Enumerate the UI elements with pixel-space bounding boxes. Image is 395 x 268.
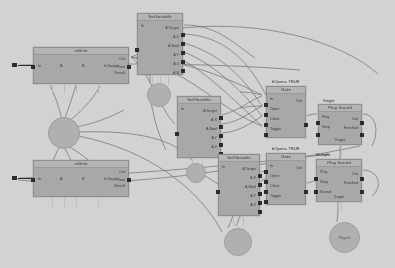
node-playsound-multiple-footer-label: Target <box>317 195 361 199</box>
node-setvariable-low-out-label-2: A Bool <box>245 185 256 189</box>
node-playsound-multiple-output-port-1[interactable] <box>360 190 364 194</box>
node-gate-top-output-port-0[interactable] <box>304 123 308 127</box>
node-setvariable-mid-output-port-0[interactable] <box>219 116 223 120</box>
node-gate-top[interactable]: GateInOpenCloseToggleOut <box>266 86 306 138</box>
node-setvariable-mid-input-port-0[interactable] <box>175 132 179 136</box>
wire-hub-to-ashint-c[interactable] <box>68 86 100 122</box>
node-gate-top-input-port-2[interactable] <box>264 123 268 127</box>
node-gate-bottom-input-port-0[interactable] <box>264 170 268 174</box>
hub-mid-lower[interactable] <box>186 163 206 183</box>
node-playsound-multiple-bottom-stub-0[interactable] <box>341 202 342 212</box>
node-ashint-top-output-port-0[interactable] <box>127 65 131 69</box>
node-playsound-single-input-port-0[interactable] <box>316 121 320 125</box>
node-setvariable-low-body: InA TargetA XA BoolA YA Z <box>219 162 259 215</box>
node-setvariable-top-input-port-0[interactable] <box>135 48 139 52</box>
node-ashint-top-bottom-stub-2[interactable] <box>76 84 77 94</box>
hub-top-mid[interactable] <box>147 83 171 107</box>
node-playsound-multiple-title: Play Sound <box>317 160 361 167</box>
wire-hub-to-ashint-b[interactable] <box>64 85 76 121</box>
node-playsound-single-input-port-1[interactable] <box>316 133 320 137</box>
node-gate-top-out-label-0: Out <box>296 99 302 103</box>
node-playsound-single-output-port-1[interactable] <box>360 133 364 137</box>
ext-port-in-top[interactable] <box>12 63 17 67</box>
hub-bottom-mid[interactable] <box>224 228 252 256</box>
node-setvariable-mid[interactable]: SetVariableInA TargetA XA BoolA YA Z <box>177 96 221 158</box>
node-ashint-bottom-input-port-0[interactable] <box>31 178 35 182</box>
node-gate-bottom-input-port-3[interactable] <box>264 200 268 204</box>
node-playsound-multiple[interactable]: Play SoundPlayStopSoundOutFinishedTarget <box>316 159 362 202</box>
node-ashint-bottom-out-label-1: Float <box>117 178 125 182</box>
node-gate-top-input-port-0[interactable] <box>264 103 268 107</box>
node-ashint-top[interactable]: aShintInABInTargetOutFloatResult <box>33 47 129 84</box>
node-playsound-multiple-in-label-2: Sound <box>320 190 331 194</box>
node-gate-top-in-label-2: Close <box>270 117 280 121</box>
node-setvariable-top-output-port-3[interactable] <box>181 60 185 64</box>
node-setvariable-mid-output-port-1[interactable] <box>219 125 223 129</box>
node-gate-bottom-in-label-1: Open <box>270 174 279 178</box>
node-playsound-single-bottom-stub-0[interactable] <box>341 145 342 155</box>
node-ashint-bottom-bottom-stub-3[interactable] <box>98 197 99 207</box>
node-ashint-bottom-bottom-stub-2[interactable] <box>76 197 77 207</box>
node-setvariable-top-body: InA TargetA XA BoolA YA ZA B <box>138 21 182 74</box>
node-ashint-top-bottom-stub-0[interactable] <box>52 84 53 94</box>
node-playsound-multiple-output-port-0[interactable] <box>360 177 364 181</box>
node-setvariable-low-output-port-3[interactable] <box>258 201 262 205</box>
node-setvariable-mid-output-port-3[interactable] <box>219 143 223 147</box>
node-ashint-top-in-label-1: A <box>60 64 63 68</box>
node-ashint-top-input-port-0[interactable] <box>31 65 35 69</box>
node-setvariable-low-input-port-0[interactable] <box>216 190 220 194</box>
node-setvariable-low-output-port-1[interactable] <box>258 183 262 187</box>
node-ashint-bottom-bottom-stub-1[interactable] <box>64 197 65 207</box>
node-setvariable-top-out-label-5: A B <box>173 71 179 75</box>
node-playsound-single-output-port-0[interactable] <box>360 121 364 125</box>
node-setvariable-mid-in-label-0: In <box>181 107 184 111</box>
node-gate-bottom-input-port-1[interactable] <box>264 180 268 184</box>
wire-playsound-s-out[interactable] <box>363 114 376 146</box>
node-gate-top-input-port-1[interactable] <box>264 113 268 117</box>
node-setvariable-mid-out-label-3: A Y <box>211 136 217 140</box>
ext-port-in-bottom[interactable] <box>12 176 17 180</box>
node-playsound-single[interactable]: Play SoundPlayStopOutFinishedTarget <box>318 104 362 145</box>
node-ashint-top-out-label-2: Result <box>114 71 125 75</box>
wire-playsound-m-out[interactable] <box>363 170 378 196</box>
node-setvariable-top-output-port-0[interactable] <box>181 33 185 37</box>
node-setvariable-top-output-port-2[interactable] <box>181 51 185 55</box>
node-setvariable-top-title: SetVariable <box>138 14 182 21</box>
node-playsound-multiple-input-port-0[interactable] <box>314 177 318 181</box>
node-setvariable-top-out-label-3: A Y <box>173 53 179 57</box>
node-ashint-bottom-bottom-stub-0[interactable] <box>52 197 53 207</box>
node-gate-bottom[interactable]: GateInOpenCloseToggleOut <box>266 153 306 205</box>
node-setvariable-mid-output-port-2[interactable] <box>219 134 223 138</box>
node-gate-bottom-output-port-0[interactable] <box>304 190 308 194</box>
hub-player[interactable]: Player1 <box>329 222 360 253</box>
node-ashint-top-bottom-stub-3[interactable] <box>98 84 99 94</box>
node-playsound-multiple-input-port-1[interactable] <box>314 190 318 194</box>
node-setvariable-mid-body: InA TargetA XA BoolA YA Z <box>178 104 220 157</box>
node-setvariable-low-output-port-4[interactable] <box>258 210 262 214</box>
wire-edge-right-top[interactable] <box>183 26 378 74</box>
hub-left-main[interactable] <box>48 117 80 149</box>
node-graph-canvas[interactable]: bOpen= TRUESinglebOpen= TRUEMultiple aSh… <box>0 0 395 268</box>
node-setvariable-top-bottom-stub-2[interactable] <box>168 75 169 85</box>
node-ashint-top-bottom-stub-1[interactable] <box>64 84 65 94</box>
node-setvariable-top-output-port-4[interactable] <box>181 69 185 73</box>
wire-gate-top-out[interactable] <box>307 114 317 116</box>
node-ashint-bottom-in-label-1: A <box>60 177 63 181</box>
node-gate-bottom-input-port-2[interactable] <box>264 190 268 194</box>
wire-setvar-top-out-a[interactable] <box>184 25 255 58</box>
node-setvariable-low[interactable]: SetVariableInA TargetA XA BoolA YA Z <box>218 154 260 216</box>
node-gate-top-input-port-3[interactable] <box>264 133 268 137</box>
node-ashint-bottom[interactable]: aShintInABInTargetOutFloatResult <box>33 160 129 197</box>
group-single: Single <box>323 98 335 103</box>
node-gate-bottom-in-label-2: Close <box>270 184 280 188</box>
wire-setvar-mid-out-c[interactable] <box>222 116 262 133</box>
node-setvariable-top[interactable]: SetVariableInA TargetA XA BoolA YA ZA B <box>137 13 183 75</box>
node-setvariable-low-bottom-stub-1[interactable] <box>243 216 244 226</box>
wire-setvar-mid-out-a[interactable] <box>222 96 262 115</box>
node-ashint-bottom-output-port-0[interactable] <box>127 178 131 182</box>
node-setvariable-low-output-port-2[interactable] <box>258 192 262 196</box>
wire-player-up[interactable] <box>337 202 338 222</box>
node-setvariable-top-output-port-1[interactable] <box>181 42 185 46</box>
node-setvariable-low-bottom-stub-0[interactable] <box>233 216 234 226</box>
node-setvariable-low-output-port-0[interactable] <box>258 174 262 178</box>
